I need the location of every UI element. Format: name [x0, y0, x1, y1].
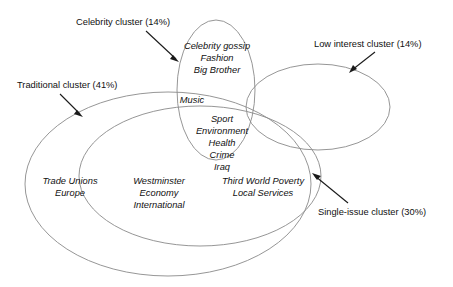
topic-europe: Europe: [55, 188, 85, 198]
arrow-head-celebrity: [170, 55, 179, 62]
topic-third-world-poverty: Third World Poverty: [222, 176, 305, 186]
leader-line-single-issue: [315, 176, 348, 203]
topic-economy: Economy: [140, 188, 180, 198]
topic-local-services: Local Services: [233, 188, 294, 198]
ellipse-low-interest[interactable]: [246, 64, 390, 150]
topic-crime: Crime: [210, 150, 235, 160]
callout-label-traditional: Traditional cluster (41%): [17, 80, 117, 90]
arrow-head-low-interest: [349, 65, 357, 73]
topic-westminster: Westminster: [133, 176, 185, 186]
venn-diagram-svg: Celebrity cluster (14%) Traditional clus…: [0, 0, 453, 287]
topic-music: Music: [180, 95, 205, 105]
topic-celebrity-gossip: Celebrity gossip: [184, 41, 250, 51]
topic-sport: Sport: [211, 114, 234, 124]
callout-label-single-issue: Single-issue cluster (30%): [318, 207, 426, 217]
topic-labels: Celebrity gossip Fashion Big Brother Mus…: [42, 41, 305, 210]
topic-international: International: [133, 200, 185, 210]
arrow-head-single-issue: [312, 173, 321, 180]
topic-environment: Environment: [196, 126, 249, 136]
callout-label-celebrity: Celebrity cluster (14%): [76, 17, 170, 27]
leader-line-celebrity: [146, 31, 176, 59]
topic-fashion: Fashion: [200, 53, 233, 63]
callout-label-low-interest: Low interest cluster (14%): [314, 39, 421, 49]
topic-iraq: Iraq: [214, 162, 231, 172]
topic-health: Health: [209, 138, 236, 148]
venn-diagram-page: Celebrity cluster (14%) Traditional clus…: [0, 0, 453, 287]
topic-trade-unions: Trade Unions: [42, 176, 97, 186]
leader-line-low-interest: [352, 52, 375, 70]
topic-big-brother: Big Brother: [194, 65, 241, 75]
